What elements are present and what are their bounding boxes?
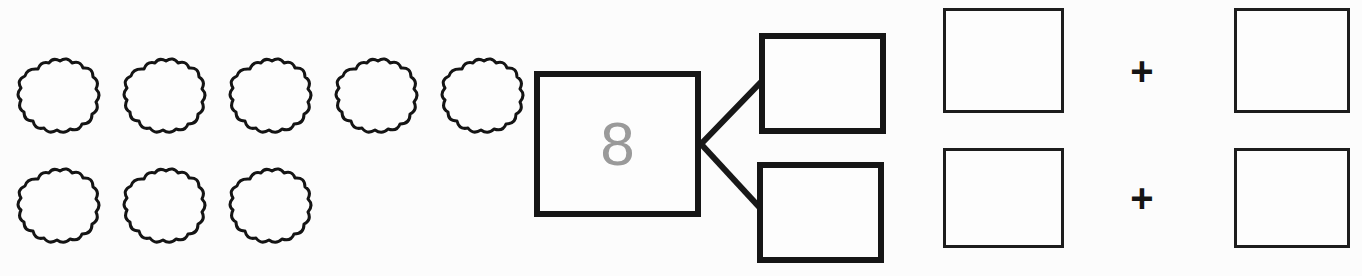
- equation-2-left-blank[interactable]: [943, 148, 1064, 248]
- plus-icon: +: [1125, 54, 1159, 88]
- worksheet-canvas: 8 + +: [0, 0, 1362, 276]
- equation-1-right-blank[interactable]: [1234, 8, 1350, 113]
- equation-group: + +: [0, 0, 1362, 276]
- plus-icon: +: [1125, 181, 1159, 215]
- equation-1-left-blank[interactable]: [943, 8, 1064, 113]
- equation-2-right-blank[interactable]: [1234, 148, 1350, 248]
